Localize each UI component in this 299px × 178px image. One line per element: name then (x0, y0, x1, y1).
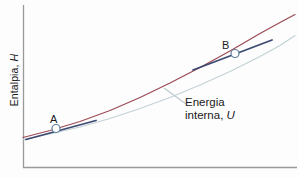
plot-canvas (0, 0, 299, 178)
internal-energy-annotation: Energia interna, U (185, 96, 235, 122)
point-b-label: B (222, 39, 229, 52)
annotation-leader-line (164, 88, 186, 104)
annotation-symbol: U (227, 109, 235, 121)
data-point-marker-a (52, 125, 60, 133)
data-point-marker-b (231, 50, 239, 58)
enthalpy-internal-energy-chart: Entalpia, H A B Energia interna, U (0, 0, 299, 178)
y-axis-label: Entalpia, H (8, 38, 20, 122)
y-axis-label-text: Entalpia, (8, 61, 20, 106)
y-axis-label-symbol: H (8, 54, 20, 62)
enthalpy-curve (23, 15, 295, 138)
annotation-line-2-text: interna, (185, 109, 227, 121)
point-a-label: A (50, 113, 57, 126)
annotation-line-1: Energia (185, 96, 235, 109)
tangent-line-at-a (26, 121, 96, 140)
internal-energy-curve (23, 36, 295, 140)
annotation-line-2: interna, U (185, 109, 235, 122)
